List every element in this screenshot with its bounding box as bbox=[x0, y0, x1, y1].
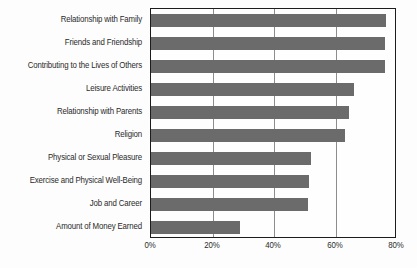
x-tick-label: 80% bbox=[388, 241, 403, 250]
bar bbox=[151, 175, 309, 188]
x-tick-label: 20% bbox=[204, 241, 219, 250]
category-label: Amount of Money Earned bbox=[2, 222, 142, 231]
bar bbox=[151, 83, 354, 96]
bar bbox=[151, 106, 349, 119]
bar bbox=[151, 198, 308, 211]
category-label: Relationship with Parents bbox=[2, 107, 142, 116]
bar bbox=[151, 14, 386, 27]
category-label: Religion bbox=[2, 130, 142, 139]
bar bbox=[151, 221, 240, 234]
category-label: Physical or Sexual Pleasure bbox=[2, 153, 142, 162]
category-axis-labels: Relationship with FamilyFriends and Frie… bbox=[0, 8, 146, 238]
bar bbox=[151, 129, 345, 142]
x-axis-tick-labels: 0%20%40%60%80% bbox=[150, 241, 396, 255]
category-label: Contributing to the Lives of Others bbox=[2, 61, 142, 70]
category-label: Exercise and Physical Well-Being bbox=[2, 176, 142, 185]
bar bbox=[151, 37, 385, 50]
category-label: Leisure Activities bbox=[2, 84, 142, 93]
category-label: Relationship with Family bbox=[2, 15, 142, 24]
category-label: Friends and Friendship bbox=[2, 38, 142, 47]
bar bbox=[151, 152, 311, 165]
plot-area bbox=[150, 8, 396, 238]
category-label: Job and Career bbox=[2, 199, 142, 208]
x-tick-label: 60% bbox=[327, 241, 342, 250]
bar-chart: Relationship with FamilyFriends and Frie… bbox=[0, 0, 417, 268]
x-tick-label: 40% bbox=[265, 241, 280, 250]
x-tick-label: 0% bbox=[144, 241, 155, 250]
bar bbox=[151, 60, 385, 73]
